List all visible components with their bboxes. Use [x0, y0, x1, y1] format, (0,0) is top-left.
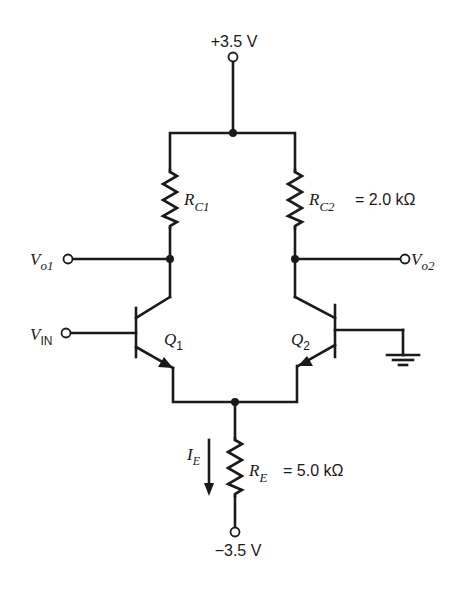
rc2-label: RC2	[308, 190, 335, 214]
negative-supply-label: −3.5 V	[215, 542, 262, 559]
positive-supply-wires	[170, 62, 295, 172]
positive-supply-terminal	[229, 53, 238, 62]
collector-wires	[73, 228, 400, 297]
rc1-resistor-icon	[163, 170, 177, 228]
ie-label: IE	[186, 445, 201, 468]
top-junction-dot	[229, 129, 237, 137]
rc1-label: RC1	[183, 190, 210, 214]
vin-label: VIN	[30, 325, 52, 348]
current-arrow-icon	[204, 440, 214, 496]
q1-transistor-icon	[71, 297, 173, 368]
positive-supply-label: +3.5 V	[211, 33, 258, 50]
ground-icon	[387, 355, 419, 365]
vo2-junction-dot	[291, 255, 299, 263]
vin-terminal	[62, 329, 71, 338]
circuit-diagram: +3.5 V RC1 RC2 = 2.0 kΩ Vo1 Vo2 VIN Q1	[0, 0, 470, 590]
vo1-label: Vo1	[30, 250, 53, 273]
re-resistor-icon	[228, 438, 242, 496]
vo2-terminal	[401, 255, 410, 264]
re-value: = 5.0 kΩ	[283, 462, 343, 479]
negative-supply-terminal	[231, 528, 240, 537]
q2-label: Q2	[291, 330, 310, 353]
vo1-junction-dot	[166, 255, 174, 263]
rc2-resistor-icon	[288, 170, 302, 228]
vo1-terminal	[64, 255, 73, 264]
rc2-value: = 2.0 kΩ	[355, 191, 415, 208]
bottom-junction-dot	[231, 398, 239, 406]
vo2-label: Vo2	[411, 250, 435, 273]
q1-label: Q1	[164, 330, 183, 353]
re-label: RE	[248, 461, 267, 485]
